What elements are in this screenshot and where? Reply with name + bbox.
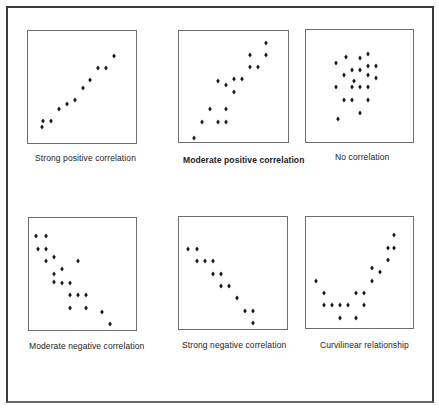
data-point-marker bbox=[52, 279, 56, 284]
scatter-points bbox=[306, 217, 415, 330]
data-point-marker bbox=[216, 119, 220, 124]
data-point-marker bbox=[362, 290, 366, 295]
data-point-marker bbox=[366, 51, 370, 56]
scatter-plot-moderate-negative-correlation bbox=[28, 217, 137, 331]
data-point-marker bbox=[232, 76, 236, 81]
data-point-marker bbox=[186, 246, 190, 251]
scatter-plot-curvilinear-relationship bbox=[305, 216, 414, 329]
scatter-plot-strong-positive-correlation bbox=[27, 30, 137, 144]
data-point-marker bbox=[322, 302, 326, 307]
data-point-marker bbox=[338, 302, 342, 307]
data-point-marker bbox=[251, 308, 255, 313]
caption-curvilinear-relationship: Curvilinear relationship bbox=[320, 340, 409, 350]
data-point-marker bbox=[68, 305, 72, 310]
data-point-marker bbox=[52, 271, 56, 276]
scatter-plot-strong-negative-correlation bbox=[178, 216, 288, 330]
data-point-marker bbox=[200, 119, 204, 124]
data-point-marker bbox=[334, 60, 338, 65]
data-point-marker bbox=[370, 278, 374, 283]
data-point-marker bbox=[264, 52, 268, 57]
data-point-marker bbox=[96, 65, 100, 70]
data-point-marker bbox=[108, 321, 112, 326]
data-point-marker bbox=[100, 309, 104, 314]
data-point-marker bbox=[370, 265, 374, 270]
data-point-marker bbox=[195, 258, 199, 263]
data-point-marker bbox=[243, 308, 247, 313]
scatter-points bbox=[179, 217, 289, 331]
data-point-marker bbox=[358, 110, 362, 115]
data-point-marker bbox=[57, 106, 61, 111]
data-point-marker bbox=[40, 124, 44, 129]
scatter-points bbox=[29, 218, 138, 332]
data-point-marker bbox=[44, 258, 48, 263]
data-point-marker bbox=[330, 302, 334, 307]
data-point-marker bbox=[366, 72, 370, 77]
data-point-marker bbox=[41, 118, 45, 123]
data-point-marker bbox=[342, 72, 346, 77]
data-point-marker bbox=[248, 64, 252, 69]
data-point-marker bbox=[386, 245, 390, 250]
data-point-marker bbox=[208, 106, 212, 111]
data-point-marker bbox=[112, 53, 116, 58]
data-point-marker bbox=[354, 290, 358, 295]
data-point-marker bbox=[68, 292, 72, 297]
data-point-marker bbox=[352, 78, 356, 83]
data-point-marker bbox=[334, 84, 338, 89]
data-point-marker bbox=[36, 246, 40, 251]
data-point-marker bbox=[195, 246, 199, 251]
data-point-marker bbox=[52, 254, 56, 259]
data-point-marker bbox=[104, 65, 108, 70]
scatter-points bbox=[179, 31, 290, 144]
data-point-marker bbox=[336, 116, 340, 121]
data-point-marker bbox=[374, 75, 378, 80]
data-point-marker bbox=[392, 232, 396, 237]
data-point-marker bbox=[362, 302, 366, 307]
data-point-marker bbox=[235, 295, 239, 300]
data-point-marker bbox=[224, 119, 228, 124]
data-point-marker bbox=[44, 233, 48, 238]
data-point-marker bbox=[227, 283, 231, 288]
scatter-points bbox=[306, 30, 415, 144]
data-point-marker bbox=[366, 84, 370, 89]
scatter-plot-moderate-positive-correlation bbox=[178, 30, 289, 143]
scatter-plot-no-correlation bbox=[305, 29, 414, 143]
data-point-marker bbox=[49, 118, 53, 123]
scatter-points bbox=[28, 31, 138, 145]
data-point-marker bbox=[350, 84, 354, 89]
data-point-marker bbox=[34, 233, 38, 238]
data-point-marker bbox=[374, 63, 378, 68]
data-point-marker bbox=[211, 258, 215, 263]
data-point-marker bbox=[322, 290, 326, 295]
data-point-marker bbox=[76, 292, 80, 297]
data-point-marker bbox=[342, 97, 346, 102]
data-point-marker bbox=[88, 77, 92, 82]
data-point-marker bbox=[251, 320, 255, 325]
data-point-marker bbox=[248, 52, 252, 57]
data-point-marker bbox=[338, 315, 342, 320]
data-point-marker bbox=[224, 82, 228, 87]
data-point-marker bbox=[346, 302, 350, 307]
data-point-marker bbox=[216, 78, 220, 83]
data-point-marker bbox=[68, 280, 72, 285]
data-point-marker bbox=[358, 67, 362, 72]
data-point-marker bbox=[219, 271, 223, 276]
data-point-marker bbox=[60, 280, 64, 285]
data-point-marker bbox=[73, 97, 77, 102]
data-point-marker bbox=[264, 40, 268, 45]
data-point-marker bbox=[84, 292, 88, 297]
data-point-marker bbox=[60, 266, 64, 271]
data-point-marker bbox=[256, 64, 260, 69]
data-point-marker bbox=[358, 84, 362, 89]
caption-moderate-positive-correlation: Moderate positive correlation bbox=[183, 155, 304, 165]
data-point-marker bbox=[192, 135, 196, 140]
data-point-marker bbox=[350, 97, 354, 102]
data-point-marker bbox=[81, 85, 85, 90]
data-point-marker bbox=[203, 258, 207, 263]
data-point-marker bbox=[366, 97, 370, 102]
caption-moderate-negative-correlation: Moderate negative correlation bbox=[29, 341, 144, 351]
data-point-marker bbox=[65, 101, 69, 106]
caption-strong-negative-correlation: Strong negative correlation bbox=[182, 340, 286, 350]
caption-strong-positive-correlation: Strong positive correlation bbox=[35, 153, 136, 163]
data-point-marker bbox=[211, 271, 215, 276]
data-point-marker bbox=[358, 55, 362, 60]
